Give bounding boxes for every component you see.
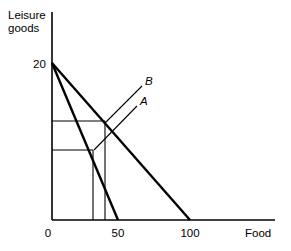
budget-line-b-label: B: [145, 75, 153, 87]
x-tick-label-0: 0: [45, 227, 51, 239]
y-axis-label-line2: goods: [8, 22, 40, 34]
budget-line-chart-svg: Leisure goods 20 0 50 100 Food B A: [0, 0, 291, 251]
economics-budget-line-figure: Leisure goods 20 0 50 100 Food B A: [0, 0, 291, 251]
x-axis-label: Food: [245, 227, 271, 239]
y-axis-label-line1: Leisure: [8, 9, 46, 21]
x-tick-label-50: 50: [112, 227, 125, 239]
chart-background: [0, 0, 291, 251]
y-tick-label-20: 20: [33, 58, 46, 70]
budget-line-a-label: A: [139, 95, 148, 107]
x-tick-label-100: 100: [180, 227, 199, 239]
